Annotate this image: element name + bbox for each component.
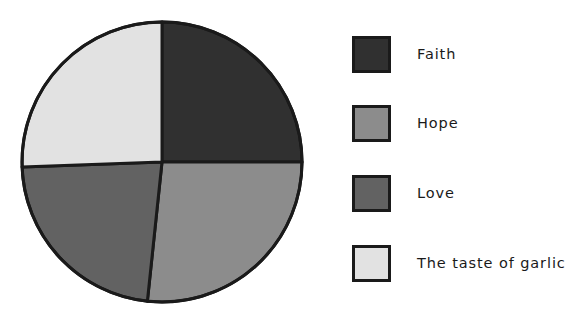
pie-slice-faith[interactable] [162, 22, 302, 162]
pie-slice-love[interactable] [22, 162, 162, 301]
legend-swatch-faith [352, 36, 391, 73]
pie-chart-svg [0, 0, 326, 326]
pie-chart-figure: Faith Hope Love The taste of garlic [0, 0, 582, 326]
legend-label-faith: Faith [417, 47, 456, 62]
pie-slice-the-taste-of-garlic[interactable] [22, 22, 162, 167]
pie-slice-hope[interactable] [147, 162, 302, 302]
chart-legend: Faith Hope Love The taste of garlic [352, 34, 578, 302]
legend-entry-garlic[interactable]: The taste of garlic [352, 243, 566, 283]
pie-plot-area [0, 0, 326, 326]
legend-entry-love[interactable]: Love [352, 173, 455, 213]
legend-swatch-love [352, 175, 391, 212]
legend-entry-hope[interactable]: Hope [352, 103, 459, 143]
legend-label-garlic: The taste of garlic [417, 256, 566, 271]
legend-label-love: Love [417, 186, 455, 201]
legend-label-hope: Hope [417, 116, 459, 131]
legend-swatch-hope [352, 105, 391, 142]
legend-swatch-garlic [352, 245, 391, 282]
legend-entry-faith[interactable]: Faith [352, 34, 456, 74]
